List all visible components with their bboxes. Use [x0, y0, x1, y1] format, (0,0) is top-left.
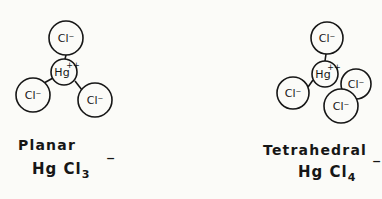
cl-label: Cl⁻ — [87, 94, 104, 107]
planar-formula: Hg Cl3− — [32, 160, 90, 178]
formula-subscript: 3 — [82, 168, 91, 181]
hg-charge: ++ — [327, 63, 340, 72]
tetrahedral-hgcl4-structure: Cl⁻ Cl⁻ Cl⁻ Hg ++ Cl⁻ — [277, 22, 371, 123]
cl-label: Cl⁻ — [319, 32, 336, 45]
cl-atom-left: Cl⁻ — [16, 78, 50, 112]
hg-charge: ++ — [66, 61, 79, 70]
formula-subscript: 4 — [348, 171, 357, 184]
planar-hgcl3-structure: Cl⁻ Cl⁻ Cl⁻ Hg ++ — [16, 21, 112, 117]
cl-atom-top: Cl⁻ — [311, 22, 343, 54]
formula-base: Hg Cl — [298, 163, 348, 181]
cl-label: Cl⁻ — [25, 89, 42, 102]
planar-label: Planar — [18, 137, 76, 153]
cl-label: Cl⁻ — [58, 32, 75, 45]
formula-charge: − — [372, 155, 382, 168]
hg-atom: Hg ++ — [312, 61, 341, 87]
tetrahedral-label: Tetrahedral — [263, 142, 367, 158]
cl-atom-left: Cl⁻ — [277, 77, 309, 109]
cl-atom-right: Cl⁻ — [78, 83, 112, 117]
cl-label: Cl⁻ — [333, 100, 350, 113]
cl-label: Cl⁻ — [285, 87, 302, 100]
cl-atom-top: Cl⁻ — [49, 21, 83, 55]
cl-label: Cl⁻ — [348, 78, 365, 91]
cl-atom-front: Cl⁻ — [324, 89, 358, 123]
tetrahedral-formula: Hg Cl4− — [298, 163, 356, 181]
formula-base: Hg Cl — [32, 160, 82, 178]
formula-charge: − — [106, 152, 116, 165]
